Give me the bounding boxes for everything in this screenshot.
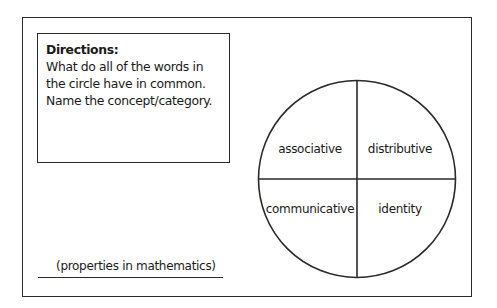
circle-diagram-graphic [257,79,457,279]
directions-title: Directions: [46,41,221,58]
quadrant-label-bottom-right: identity [378,202,421,216]
answer-underline [38,277,223,278]
directions-text: What do all of the words in the circle h… [46,58,221,109]
answer-text: (properties in mathematics) [56,259,216,273]
quadrant-label-bottom-left: communicative [266,202,354,216]
word-circle: associative distributive communicative i… [257,79,457,279]
quadrant-label-top-left: associative [278,142,342,156]
directions-box: Directions: What do all of the words in … [37,33,230,163]
quadrant-label-top-right: distributive [368,142,432,156]
